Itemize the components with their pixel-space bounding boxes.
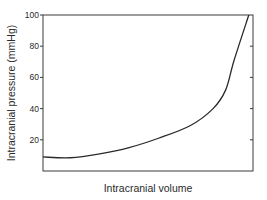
y-tick-label: 60 bbox=[30, 72, 40, 82]
y-tick-label: 40 bbox=[30, 104, 40, 114]
y-axis-label: Intracranial pressure (mmHg) bbox=[5, 25, 17, 162]
y-tick-label: 80 bbox=[30, 41, 40, 51]
pressure-volume-chart: 20406080100 Intracranial pressure (mmHg)… bbox=[0, 0, 267, 200]
y-tick-label: 100 bbox=[25, 10, 39, 20]
x-axis-label: Intracranial volume bbox=[104, 182, 193, 194]
pressure-volume-curve bbox=[43, 15, 249, 158]
y-tick-label: 20 bbox=[30, 135, 40, 145]
y-axis-ticks: 20406080100 bbox=[25, 10, 43, 145]
plot-border bbox=[43, 15, 253, 171]
plot-frame bbox=[43, 15, 253, 171]
